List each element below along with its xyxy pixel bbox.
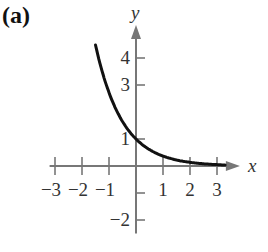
x-tick-label: 1 [158, 179, 168, 200]
x-axis-arrow-icon [226, 161, 240, 171]
x-tick-label: −3 [41, 179, 61, 200]
axes [50, 25, 240, 234]
y-tick-label: 3 [121, 74, 131, 95]
x-tick-label: −1 [95, 179, 115, 200]
y-tick-label: 4 [121, 47, 131, 68]
x-tick-label: 3 [212, 179, 222, 200]
curve-line [96, 45, 226, 165]
function-graph: xy−3−2−1123431−2 [0, 0, 268, 252]
y-tick-label: −2 [110, 209, 130, 230]
y-axis-arrow-icon [131, 25, 141, 39]
x-tick-label: 2 [185, 179, 195, 200]
y-axis-label: y [129, 2, 140, 23]
x-axis-label: x [247, 155, 257, 176]
tick-labels: xy−3−2−1123431−2 [41, 2, 257, 230]
x-tick-label: −2 [68, 179, 88, 200]
